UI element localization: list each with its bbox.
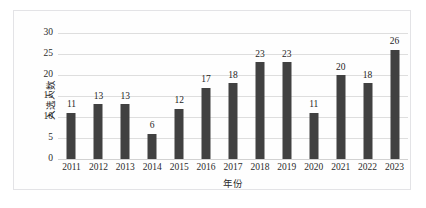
bar-value-label: 13 [121, 92, 131, 102]
axis-baseline [58, 159, 408, 160]
bar-value-label: 23 [282, 50, 292, 60]
y-axis-tick-label: 30 [44, 28, 54, 38]
bar-value-label: 26 [390, 37, 400, 47]
bar-value-label: 18 [228, 71, 238, 81]
bar-group: 132012 [85, 33, 112, 159]
bar-group: 232018 [246, 33, 273, 159]
bar-value-label: 18 [363, 71, 373, 81]
x-axis-tick-label: 2021 [331, 163, 350, 173]
bar [363, 83, 372, 159]
bar-group: 262023 [381, 33, 408, 159]
bar-value-label: 13 [94, 92, 104, 102]
x-axis-tick-label: 2011 [62, 163, 81, 173]
x-axis-tick-label: 2012 [89, 163, 108, 173]
x-axis-tick-label: 2016 [197, 163, 216, 173]
bar-value-label: 11 [67, 100, 76, 110]
figure-caption [96, 200, 346, 208]
bar [202, 88, 211, 159]
x-axis-tick-label: 2019 [277, 163, 296, 173]
bar [282, 62, 291, 159]
x-axis-tick-label: 2018 [250, 163, 269, 173]
x-axis-tick-label: 2022 [358, 163, 377, 173]
bar [94, 104, 103, 159]
bar-value-label: 23 [255, 50, 265, 60]
y-axis-tick-label: 20 [44, 70, 54, 80]
bar [67, 113, 76, 159]
bar [336, 75, 345, 159]
y-axis-tick-label: 10 [44, 112, 54, 122]
bar-group: 112020 [300, 33, 327, 159]
bar [309, 113, 318, 159]
x-axis-tick-label: 2020 [304, 163, 323, 173]
bar [228, 83, 237, 159]
x-axis-title: 年份 [58, 176, 408, 190]
bar-value-label: 12 [174, 96, 184, 106]
bar-value-label: 20 [336, 63, 346, 73]
bar-group: 182017 [220, 33, 247, 159]
bar [148, 134, 157, 159]
bar-group: 172016 [193, 33, 220, 159]
plot-area: 0510152025301120111320121320136201412201… [58, 33, 408, 159]
bar-group: 122015 [166, 33, 193, 159]
y-axis-tick-label: 5 [48, 133, 53, 143]
bar-group: 132013 [112, 33, 139, 159]
bar-group: 232019 [273, 33, 300, 159]
x-axis-tick-label: 2015 [170, 163, 189, 173]
y-axis-tick-label: 15 [44, 91, 54, 101]
bar-group: 62014 [139, 33, 166, 159]
bar-group: 182022 [354, 33, 381, 159]
x-axis-tick-label: 2023 [385, 163, 404, 173]
y-axis-tick-label: 25 [44, 49, 54, 59]
x-axis-tick-label: 2013 [116, 163, 135, 173]
y-axis-tick-label: 0 [48, 154, 53, 164]
bar [175, 109, 184, 159]
x-axis-tick-label: 2017 [223, 163, 242, 173]
bar-value-label: 17 [201, 75, 211, 85]
chart-figure: 入选人数 05101520253011201113201213201362014… [0, 0, 426, 208]
bar-value-label: 6 [150, 121, 155, 131]
bar [121, 104, 130, 159]
x-axis-tick-label: 2014 [143, 163, 162, 173]
bar-group: 112011 [58, 33, 85, 159]
bar-group: 202021 [327, 33, 354, 159]
chart-frame: 入选人数 05101520253011201113201213201362014… [13, 10, 411, 190]
bar-value-label: 11 [309, 100, 318, 110]
bar [390, 50, 399, 159]
bar [255, 62, 264, 159]
